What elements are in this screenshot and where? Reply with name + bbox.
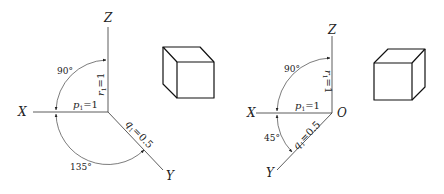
r-coefficient-label: r1=1 [322, 70, 334, 93]
angle-label-45: 45° [264, 133, 280, 143]
r-coefficient-label: r1=1 [95, 73, 107, 96]
angle-label-135: 135° [70, 162, 92, 172]
z-axis-label: Z [327, 23, 337, 37]
diagram-canvas: Z X Y 90° 135° p1=1 r1=1 q1=0.5 Z X Y O … [0, 0, 444, 194]
left-axes-figure: Z X Y 90° 135° p1=1 r1=1 q1=0.5 [17, 11, 175, 183]
cavalier-cube [163, 47, 214, 98]
y-axis-label: Y [266, 166, 275, 180]
angle-label-90: 90° [284, 64, 300, 74]
q-coefficient-label: q1=0.5 [291, 119, 324, 152]
p-coefficient-label: p1=1 [295, 100, 320, 112]
x-axis-label: X [17, 105, 27, 119]
x-axis-label: X [246, 106, 256, 120]
origin-label: O [337, 106, 347, 120]
p-coefficient-label: p1=1 [73, 99, 98, 111]
right-axes-figure: Z X Y O 90° 45° p1=1 r1=1 q1=0.5 [246, 23, 347, 180]
angle-label-90: 90° [57, 66, 73, 76]
q-coefficient-label: q1=0.5 [123, 118, 156, 151]
z-axis-label: Z [103, 11, 113, 25]
y-axis-label: Y [166, 169, 175, 183]
cabinet-cube [374, 49, 425, 100]
